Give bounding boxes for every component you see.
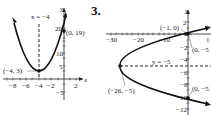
left-xtick-label: −6: [22, 82, 30, 90]
right-ytick-label: −12: [176, 106, 187, 114]
left-xtick-label: 2: [74, 82, 78, 90]
right-xtick-label: −10: [159, 36, 170, 44]
left-graph: x = −4 y x (0, 19) (−4, 3) −8 −6 −4 −2 2…: [3, 5, 88, 100]
left-ytick-label: 10: [56, 50, 64, 58]
right-xtick-label: −30: [106, 36, 117, 44]
problem-number: 3.: [91, 3, 101, 18]
right-xtick-label: 1: [206, 36, 210, 44]
right-sym-label: y = −5: [152, 58, 171, 66]
right-point-0-upper: [186, 32, 190, 36]
left-ytick-label: −5: [56, 89, 64, 97]
right-ytick-label: −8: [180, 81, 188, 89]
left-vertex-point: [37, 69, 41, 73]
left-ytick-label: 5: [59, 63, 63, 71]
right-ytick-label: −2: [180, 44, 188, 52]
right-graph: y (−1, 0) (0, −5 y = −5 (−26, −5) (0, −5…: [106, 7, 211, 115]
right-vertex-label: (−26, −5): [108, 87, 135, 95]
right-ytick-label: −4: [180, 56, 188, 64]
right-ytick-label: 2: [183, 19, 187, 27]
left-ytick-label: 20: [55, 25, 63, 33]
right-p1-label: (−1, 0): [160, 24, 180, 32]
right-p3-label: (0, −5: [192, 85, 209, 93]
right-xtick-label: −20: [133, 36, 144, 44]
left-xtick-label: −4: [35, 82, 43, 90]
left-xtick-label: −2: [47, 82, 55, 90]
right-ytick-label: −10: [176, 94, 187, 102]
left-sym-label: x = −4: [31, 13, 50, 21]
right-p2-label: (0, −5: [192, 46, 209, 54]
right-ytick-label: −6: [180, 69, 188, 77]
left-vertex-label: (−4, 3): [3, 67, 23, 75]
left-x-axis-label: x: [83, 76, 88, 84]
left-xtick-label: −8: [9, 82, 17, 90]
left-yint-label: (0, 19): [66, 29, 85, 37]
figure: x = −4 y x (0, 19) (−4, 3) −8 −6 −4 −2 2…: [0, 0, 211, 115]
